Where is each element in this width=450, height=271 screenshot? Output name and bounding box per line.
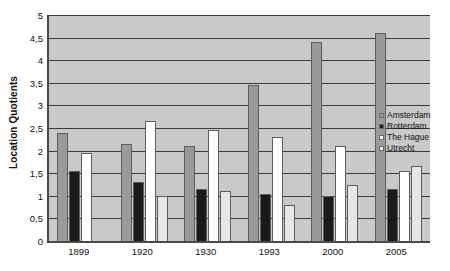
y-axis-tick: 1,5: [30, 168, 43, 179]
legend-item[interactable]: Utrecht: [379, 143, 430, 153]
y-axis-tick: 4: [38, 55, 43, 66]
y-axis-tick: 2,5: [30, 123, 43, 134]
y-axis-tick: 5: [38, 10, 43, 21]
bar-group: [49, 15, 113, 241]
bar[interactable]: [145, 121, 156, 241]
bar[interactable]: [260, 194, 271, 241]
y-axis-tick: 3,5: [30, 77, 43, 88]
legend-label: Amsterdam: [387, 110, 430, 120]
bar[interactable]: [157, 196, 168, 241]
bars-layer: [49, 15, 430, 241]
y-axis-tick: 4,5: [30, 32, 43, 43]
bar[interactable]: [133, 182, 144, 241]
bar[interactable]: [272, 137, 283, 241]
y-axis-title: Location Quotients: [2, 0, 24, 245]
legend-item[interactable]: Rotterdam: [379, 121, 430, 131]
y-axis-tick: 2: [38, 145, 43, 156]
x-axis-tick-labels: 189919201930199320002005: [47, 246, 428, 266]
bar[interactable]: [335, 146, 346, 241]
legend-swatch-icon: [379, 135, 384, 140]
bar[interactable]: [121, 144, 132, 241]
x-axis-tick: 2000: [322, 246, 343, 257]
bar[interactable]: [284, 205, 295, 241]
bar[interactable]: [411, 166, 422, 241]
y-axis-tick: 0: [38, 236, 43, 247]
legend-label: Utrecht: [387, 143, 414, 153]
legend-swatch-icon: [379, 146, 384, 151]
bar[interactable]: [323, 196, 334, 241]
y-axis-title-label: Location Quotients: [8, 76, 19, 169]
x-axis-tick: 1930: [195, 246, 216, 257]
y-axis-tick: 1: [38, 190, 43, 201]
bar[interactable]: [184, 146, 195, 241]
bar[interactable]: [347, 185, 358, 242]
bar[interactable]: [399, 171, 410, 241]
bar[interactable]: [248, 85, 259, 241]
bar[interactable]: [311, 42, 322, 241]
bar[interactable]: [387, 189, 398, 241]
bar-group: [113, 15, 177, 241]
x-axis-tick: 1920: [132, 246, 153, 257]
legend-item[interactable]: The Hague: [379, 132, 430, 142]
plot-area: [47, 15, 430, 243]
x-axis-tick: 1899: [68, 246, 89, 257]
y-axis-tick-labels: 54,543,532,521,510,50: [22, 9, 46, 241]
chart-legend: AmsterdamRotterdamThe HagueUtrecht: [379, 110, 430, 153]
x-axis-tick: 1993: [259, 246, 280, 257]
bar-group: [303, 15, 367, 241]
legend-item[interactable]: Amsterdam: [379, 110, 430, 120]
bar[interactable]: [208, 130, 219, 241]
legend-swatch-icon: [379, 124, 384, 129]
bar[interactable]: [196, 189, 207, 241]
bar[interactable]: [69, 171, 80, 241]
bar[interactable]: [220, 191, 231, 241]
legend-swatch-icon: [379, 113, 384, 118]
bar[interactable]: [81, 153, 92, 241]
x-axis-tick: 2005: [386, 246, 407, 257]
bar-chart: Location Quotients 54,543,532,521,510,50…: [0, 0, 450, 271]
legend-label: Rotterdam: [387, 121, 427, 131]
y-axis-tick: 3: [38, 100, 43, 111]
legend-label: The Hague: [387, 132, 429, 142]
bar[interactable]: [57, 133, 68, 241]
y-axis-tick: 0,5: [30, 213, 43, 224]
bar-group: [176, 15, 240, 241]
bar-group: [240, 15, 304, 241]
